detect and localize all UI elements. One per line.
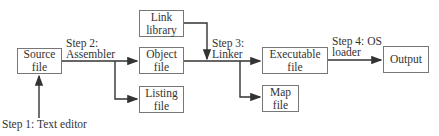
listing-file-label: Listing file (140, 87, 183, 113)
link-library-label: Link library (140, 11, 183, 37)
step2-label-line2: Assembler (66, 48, 115, 60)
listing-file-box: Listing file (139, 86, 184, 113)
link-library-box: Link library (139, 10, 184, 37)
output-box: Output (383, 46, 429, 73)
executable-file-box: Executable file (262, 47, 328, 74)
source-file-box: Source file (17, 48, 62, 74)
build-process-diagram: Source file Link library Object file Lis… (0, 0, 439, 136)
source-file-label: Source file (18, 48, 61, 74)
executable-file-label: Executable file (263, 48, 327, 74)
step4-label-line2: loader (332, 46, 361, 58)
object-file-box: Object file (139, 47, 184, 74)
output-label: Output (390, 53, 422, 66)
object-file-label: Object file (140, 48, 183, 74)
map-file-box: Map file (262, 85, 299, 112)
step3-label-line2: Linker (212, 48, 243, 60)
map-file-label: Map file (263, 86, 298, 112)
step1-label: Step 1: Text editor (2, 118, 87, 130)
connector-arrows (0, 0, 439, 136)
